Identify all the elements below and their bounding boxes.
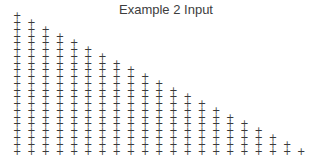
plus-marker: + — [56, 147, 64, 157]
plus-marker: + — [198, 147, 206, 157]
plus-marker: + — [112, 147, 120, 157]
figure: Example 2 Input ++++++++++++++++++++++++… — [0, 0, 311, 157]
plot-area: ++++++++++++++++++++++++++++++++++++++++… — [0, 0, 311, 157]
plus-marker: + — [254, 147, 262, 157]
plus-marker: + — [141, 147, 149, 157]
plus-marker: + — [84, 147, 92, 157]
plus-marker: + — [27, 147, 35, 157]
plus-marker: + — [183, 147, 191, 157]
plus-marker: + — [283, 147, 291, 157]
plus-marker: + — [269, 147, 277, 157]
plus-marker: + — [169, 147, 177, 157]
plus-marker: + — [226, 147, 234, 157]
plus-marker: + — [155, 147, 163, 157]
plus-marker: + — [98, 147, 106, 157]
plus-marker: + — [297, 147, 305, 157]
plus-marker: + — [240, 147, 248, 157]
plus-marker: + — [13, 147, 21, 157]
plus-marker: + — [41, 147, 49, 157]
plus-marker: + — [127, 147, 135, 157]
plus-marker: + — [212, 147, 220, 157]
plus-marker: + — [70, 147, 78, 157]
